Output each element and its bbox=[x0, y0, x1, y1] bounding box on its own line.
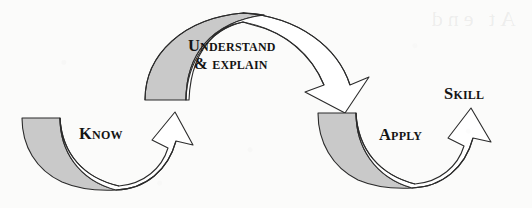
know-arrow-lower-sweep bbox=[116, 141, 176, 190]
label-understand-line1: Understand bbox=[188, 36, 276, 55]
cycle-diagram-graphic bbox=[0, 0, 532, 208]
label-apply: Apply bbox=[379, 127, 422, 144]
label-understand-line2: & explain bbox=[194, 56, 276, 73]
label-know: Know bbox=[79, 126, 123, 143]
apply-swoosh-arrow bbox=[318, 108, 491, 188]
label-skill: Skill bbox=[444, 86, 484, 103]
label-understand-explain: Understand & explain bbox=[188, 38, 276, 73]
figure-canvas: Understand & explain Know Apply Skill At… bbox=[0, 0, 532, 208]
